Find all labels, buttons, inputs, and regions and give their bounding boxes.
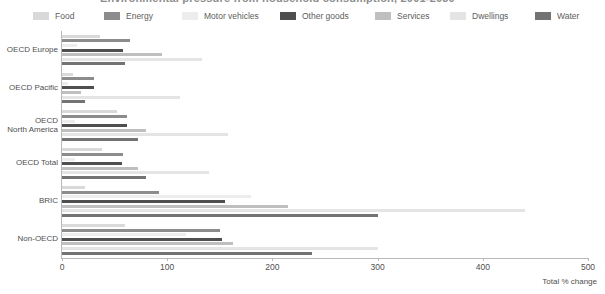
bar[interactable] [62, 214, 378, 217]
legend-item-water[interactable]: Water [535, 12, 579, 21]
x-axis-tick [588, 258, 589, 261]
legend-label-energy: Energy [126, 12, 153, 21]
bar[interactable] [62, 148, 102, 151]
bar[interactable] [62, 195, 251, 198]
y-axis-label-line: North America [0, 126, 58, 135]
legend-item-food[interactable]: Food [33, 12, 74, 21]
bar[interactable] [62, 167, 138, 170]
x-axis-tick [378, 258, 379, 261]
bar[interactable] [62, 49, 123, 52]
chart-container: Environmental pressure from household co… [0, 0, 605, 294]
legend-label-water: Water [557, 12, 579, 21]
bar[interactable] [62, 129, 146, 132]
legend-label-food: Food [55, 12, 74, 21]
bar-group [62, 145, 588, 183]
plot-area [62, 31, 588, 258]
bar[interactable] [62, 115, 127, 118]
y-axis-label-line: OECD Europe [0, 46, 58, 55]
x-axis-tick [483, 258, 484, 261]
legend-item-services[interactable]: Services [375, 12, 430, 21]
x-axis-tick-label: 400 [476, 262, 490, 272]
x-axis-tick-labels: 0100200300400500 [62, 262, 592, 274]
bar[interactable] [62, 158, 75, 161]
page-title: Environmental pressure from household co… [100, 0, 455, 4]
bar[interactable] [62, 162, 122, 165]
bar[interactable] [62, 209, 525, 212]
chart-title-strip: Environmental pressure from household co… [0, 0, 605, 7]
y-axis-label-line: BRIC [0, 197, 58, 206]
bar[interactable] [62, 229, 220, 232]
bar[interactable] [62, 44, 77, 47]
bar[interactable] [62, 110, 117, 113]
bar[interactable] [62, 96, 180, 99]
bar[interactable] [62, 120, 75, 123]
y-axis-labels: OECD EuropeOECD PacificOECDNorth America… [0, 31, 58, 258]
y-axis-label: OECD Pacific [0, 84, 58, 93]
legend-swatch-energy [104, 12, 120, 20]
bar[interactable] [62, 100, 85, 103]
legend-swatch-services [375, 12, 391, 20]
bar[interactable] [62, 58, 202, 61]
bar[interactable] [62, 238, 222, 241]
legend-swatch-food [33, 12, 49, 20]
bar[interactable] [62, 77, 94, 80]
bar[interactable] [62, 205, 288, 208]
bar[interactable] [62, 138, 138, 141]
legend-swatch-dwellings [450, 12, 466, 20]
x-axis-tick [62, 258, 63, 261]
x-axis-tick-label: 500 [581, 262, 595, 272]
legend-swatch-motor_vehicles [182, 12, 198, 20]
y-axis-label-line: OECD Total [0, 159, 58, 168]
bar-group [62, 31, 588, 69]
legend-swatch-water [535, 12, 551, 20]
legend-item-motor_vehicles[interactable]: Motor vehicles [182, 12, 259, 21]
legend-label-other_goods: Other goods [302, 12, 349, 21]
bar[interactable] [62, 242, 233, 245]
legend-item-dwellings[interactable]: Dwellings [450, 12, 508, 21]
bar[interactable] [62, 191, 159, 194]
legend-item-other_goods[interactable]: Other goods [280, 12, 349, 21]
bar[interactable] [62, 252, 312, 255]
bar[interactable] [62, 53, 162, 56]
bar-group [62, 182, 588, 220]
legend-swatch-other_goods [280, 12, 296, 20]
bar[interactable] [62, 153, 123, 156]
x-axis-line [61, 258, 588, 259]
y-axis-label: BRIC [0, 197, 58, 206]
bar[interactable] [62, 82, 68, 85]
x-axis-tick [167, 258, 168, 261]
bar[interactable] [62, 186, 85, 189]
bar[interactable] [62, 35, 100, 38]
y-axis-label-line: Non-OECD [0, 235, 58, 244]
y-axis-label: OECDNorth America [0, 117, 58, 134]
x-axis-tick-label: 200 [265, 262, 279, 272]
chart-legend: FoodEnergyMotor vehiclesOther goodsServi… [0, 9, 605, 23]
bar[interactable] [62, 39, 130, 42]
bar[interactable] [62, 171, 209, 174]
bar[interactable] [62, 73, 73, 76]
x-axis-tick-label: 100 [160, 262, 174, 272]
y-axis-label: Non-OECD [0, 235, 58, 244]
bar[interactable] [62, 91, 81, 94]
bar-group [62, 107, 588, 145]
y-axis-label: OECD Total [0, 159, 58, 168]
legend-label-services: Services [397, 12, 430, 21]
bar[interactable] [62, 62, 125, 65]
bar[interactable] [62, 233, 186, 236]
bar[interactable] [62, 224, 125, 227]
bar[interactable] [62, 86, 94, 89]
bar[interactable] [62, 124, 127, 127]
x-axis-tick-label: 300 [371, 262, 385, 272]
legend-label-dwellings: Dwellings [472, 12, 508, 21]
bar[interactable] [62, 247, 378, 250]
x-axis-title: Total % change [542, 277, 597, 286]
bar-group [62, 220, 588, 258]
bar[interactable] [62, 200, 225, 203]
legend-item-energy[interactable]: Energy [104, 12, 153, 21]
x-axis-tick-label: 0 [60, 262, 65, 272]
y-axis-label-line: OECD Pacific [0, 84, 58, 93]
legend-label-motor_vehicles: Motor vehicles [204, 12, 259, 21]
bar[interactable] [62, 133, 228, 136]
bar[interactable] [62, 176, 146, 179]
bar-group [62, 69, 588, 107]
